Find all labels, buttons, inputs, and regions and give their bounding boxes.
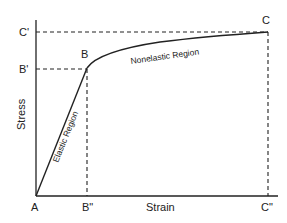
y-axis-label: Stress [15, 98, 27, 130]
b-prime-label: B' [19, 63, 28, 75]
c-prime-label: C' [19, 26, 29, 38]
b-double-prime-label: B" [82, 201, 93, 213]
point-a-label: A [31, 201, 39, 213]
stress-strain-diagram: C B A C' B' B" C" Strain Stress Elastic … [0, 0, 287, 223]
c-double-prime-label: C" [261, 201, 273, 213]
point-b-label: B [81, 48, 88, 60]
nonelastic-region-label: Nonelastic Region [130, 46, 200, 66]
elastic-region-label: Elastic Region [51, 109, 81, 163]
x-axis-label: Strain [146, 201, 175, 213]
point-c-label: C [262, 14, 270, 26]
